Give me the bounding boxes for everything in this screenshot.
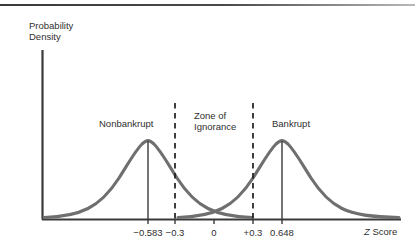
y-axis-title: ProbabilityDensity [29,20,73,42]
zone-label-line1: Zone of [194,110,226,121]
zone-of-ignorance-label: Zone ofIgnorance [194,110,236,132]
x-axis-title: Z Score [364,226,397,237]
x-tick-label-neg03: −0.3 [154,227,196,238]
y-axis-title-line1: Probability [29,20,73,31]
x-tick-label-0648: 0.648 [258,227,306,238]
nonbankrupt-curve-label: Nonbankrupt [99,118,153,129]
bankrupt-curve-label: Bankrupt [272,118,310,129]
x-tick-label-zero: 0 [199,227,229,238]
y-axis-title-line2: Density [29,31,61,42]
x-axis-title-rest: Score [370,226,397,237]
zone-label-line2: Ignorance [194,121,236,132]
bankrupt-density-curve [178,141,399,218]
probability-density-figure: ProbabilityDensity Nonbankrupt Zone ofIg… [0,0,415,249]
